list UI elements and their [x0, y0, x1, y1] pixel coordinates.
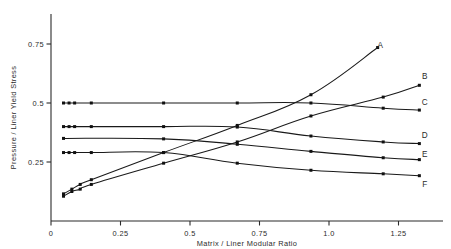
series-marker-c [68, 102, 71, 105]
chart-plot: 0.250.50.7500.250.50.751.01.25Matrix / L… [0, 0, 451, 249]
series-marker-c [309, 102, 312, 105]
y-tick-label: 0.25 [28, 158, 44, 167]
y-axis-title: Pressure / Liner Yield Stress [9, 66, 18, 169]
series-label-b: B [422, 72, 428, 81]
series-marker-c [418, 109, 421, 112]
series-marker-f [162, 151, 165, 154]
series-marker-f [68, 151, 71, 154]
series-marker-f [309, 169, 312, 172]
series-marker-d [62, 125, 65, 128]
series-marker-c [162, 102, 165, 105]
y-tick-label: 0.5 [33, 99, 44, 108]
series-line-c [64, 103, 420, 111]
series-marker-d [68, 125, 71, 128]
series-marker-b [62, 195, 65, 198]
series-marker-d [382, 140, 385, 143]
x-tick-label: 0 [49, 229, 54, 238]
series-marker-a [90, 178, 93, 181]
series-label-d: D [422, 131, 428, 140]
series-marker-b [70, 190, 73, 193]
series-marker-c [236, 102, 239, 105]
series-label-e: E [422, 150, 428, 159]
series-line-f [64, 152, 420, 176]
series-marker-c [382, 107, 385, 110]
x-tick-label: 0.5 [184, 229, 195, 238]
x-axis-title: Matrix / Liner Modular Ratio [197, 239, 298, 248]
series-label-f: F [422, 180, 427, 189]
series-marker-b [382, 96, 385, 99]
series-marker-f [418, 174, 421, 177]
series-marker-d [90, 125, 93, 128]
x-tick-label: 0.75 [252, 229, 268, 238]
series-marker-e [62, 137, 65, 140]
series-marker-f [62, 151, 65, 154]
series-marker-e [382, 156, 385, 159]
series-marker-c [90, 102, 93, 105]
series-marker-d [418, 142, 421, 145]
x-tick-label: 1.0 [323, 229, 334, 238]
series-marker-e [418, 158, 421, 161]
series-marker-c [73, 102, 76, 105]
series-marker-d [236, 126, 239, 129]
series-marker-b [162, 162, 165, 165]
series-marker-a [309, 93, 312, 96]
series-line-e [64, 138, 420, 159]
x-tick-label: 1.25 [391, 229, 407, 238]
series-marker-d [162, 125, 165, 128]
series-marker-f [236, 162, 239, 165]
series-marker-d [309, 135, 312, 138]
series-marker-e [162, 137, 165, 140]
series-marker-f [382, 172, 385, 175]
series-marker-f [73, 151, 76, 154]
series-label-c: C [422, 98, 428, 107]
series-marker-e [309, 150, 312, 153]
chart-container: 0.250.50.7500.250.50.751.01.25Matrix / L… [0, 0, 451, 249]
series-marker-d [73, 125, 76, 128]
series-marker-a [79, 183, 82, 186]
series-marker-b [309, 114, 312, 117]
series-marker-c [62, 102, 65, 105]
series-marker-b [90, 183, 93, 186]
y-tick-label: 0.75 [28, 40, 44, 49]
series-marker-b [418, 84, 421, 87]
x-tick-label: 0.25 [113, 229, 129, 238]
series-label-a: A [378, 41, 384, 50]
series-marker-e [236, 143, 239, 146]
series-marker-b [79, 188, 82, 191]
series-marker-f [90, 151, 93, 154]
